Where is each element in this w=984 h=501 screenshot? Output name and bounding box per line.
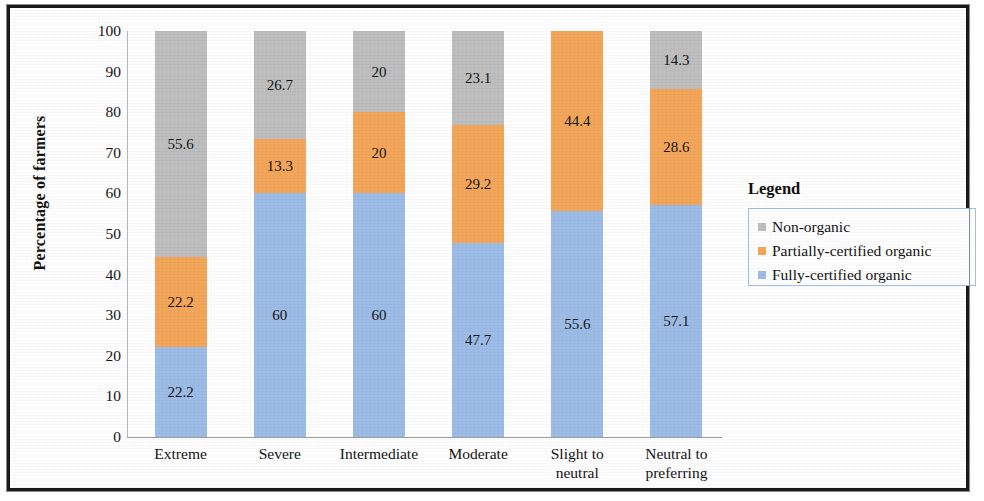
bar-segment[interactable]: 55.6 (551, 211, 603, 437)
x-axis-tick-line: Severe (228, 444, 332, 463)
x-axis-tick-line: Intermediate (327, 444, 431, 463)
bar-value-label: 22.2 (155, 293, 207, 310)
y-axis-tick-50: 50 (65, 225, 121, 243)
x-axis-tick-label: Slight toneutral (525, 444, 629, 482)
bar-value-label: 20 (353, 144, 405, 161)
bar-value-label: 47.7 (452, 332, 504, 349)
bar-value-label: 14.3 (650, 52, 702, 69)
bar-value-label: 44.4 (551, 113, 603, 130)
y-axis-tick-10: 10 (65, 387, 121, 405)
bar-value-label: 57.1 (650, 313, 702, 330)
legend-item[interactable]: Fully-certified organic (758, 264, 912, 286)
bar-value-label: 60 (353, 307, 405, 324)
bar-segment[interactable]: 13.3 (254, 139, 306, 193)
bar-value-label: 13.3 (254, 158, 306, 175)
bar-segment[interactable]: 44.4 (551, 31, 603, 211)
x-axis-tick-label: Severe (228, 444, 332, 463)
y-axis-tick-80: 80 (65, 103, 121, 121)
bar-segment[interactable]: 47.7 (452, 243, 504, 437)
legend-item-label: Non-organic (772, 218, 850, 236)
bar-segment[interactable]: 22.2 (155, 257, 207, 347)
y-axis-tick-60: 60 (65, 184, 121, 202)
x-axis-tick-label: Intermediate (327, 444, 431, 463)
legend-swatch-icon (758, 247, 766, 255)
bar-value-label: 23.1 (452, 69, 504, 86)
legend-swatch-icon (758, 271, 766, 279)
bar-value-label: 29.2 (452, 176, 504, 193)
y-axis-tick-70: 70 (65, 144, 121, 162)
legend-box: Non-organicPartially-certified organicFu… (748, 208, 976, 286)
legend-item-label: Partially-certified organic (772, 242, 931, 260)
y-axis-tick-90: 90 (65, 63, 121, 81)
bar-value-label: 22.2 (155, 383, 207, 400)
x-axis-line (127, 437, 722, 438)
legend-item[interactable]: Non-organic (758, 216, 850, 238)
bar-segment[interactable]: 23.1 (452, 31, 504, 125)
bar-segment[interactable]: 20 (353, 112, 405, 193)
bar-segment[interactable]: 57.1 (650, 205, 702, 437)
x-axis-tick-line: neutral (525, 463, 629, 482)
bar-group[interactable]: 47.729.223.1 (452, 31, 504, 437)
legend-title: Legend (748, 179, 800, 199)
legend-swatch-icon (758, 223, 766, 231)
plot-area: 22.222.255.66013.326.760202047.729.223.1… (127, 31, 722, 437)
x-axis-tick-line: Extreme (129, 444, 233, 463)
legend-item[interactable]: Partially-certified organic (758, 240, 931, 262)
y-axis-tick-20: 20 (65, 347, 121, 365)
bar-segment[interactable]: 60 (353, 193, 405, 437)
x-axis-tick-labels: ExtremeSevereIntermediateModerateSlight … (127, 444, 722, 492)
y-axis-title: Percentage of farmers (31, 68, 49, 318)
bar-value-label: 20 (353, 63, 405, 80)
x-axis-tick-line: Moderate (426, 444, 530, 463)
bar-segment[interactable]: 14.3 (650, 31, 702, 89)
bar-segment[interactable]: 22.2 (155, 347, 207, 437)
bar-group[interactable]: 602020 (353, 31, 405, 437)
x-axis-tick-label: Moderate (426, 444, 530, 463)
x-axis-tick-label: Neutral topreferring (624, 444, 728, 482)
y-axis-tick-labels: 1009080706050403020100 (65, 31, 121, 437)
bar-segment[interactable]: 55.6 (155, 31, 207, 257)
x-axis-tick-line: Slight to (525, 444, 629, 463)
bar-value-label: 55.6 (155, 135, 207, 152)
x-axis-tick-label: Extreme (129, 444, 233, 463)
x-axis-tick-line: preferring (624, 463, 728, 482)
bar-group[interactable]: 22.222.255.6 (155, 31, 207, 437)
bar-value-label: 60 (254, 307, 306, 324)
y-axis-tick-40: 40 (65, 266, 121, 284)
bar-value-label: 28.6 (650, 139, 702, 156)
bar-value-label: 55.6 (551, 316, 603, 333)
stacked-bar-chart: Percentage of farmers 100908070605040302… (10, 8, 972, 494)
bar-segment[interactable]: 28.6 (650, 89, 702, 205)
bar-group[interactable]: 57.128.614.3 (650, 31, 702, 437)
y-axis-tick-30: 30 (65, 306, 121, 324)
x-axis-tick-line: Neutral to (624, 444, 728, 463)
bar-group[interactable]: 55.644.4 (551, 31, 603, 437)
y-axis-tick-0: 0 (65, 428, 121, 446)
legend-item-label: Fully-certified organic (772, 266, 912, 284)
bar-segment[interactable]: 26.7 (254, 31, 306, 139)
y-axis-line (127, 31, 128, 437)
figure-frame: Percentage of farmers 100908070605040302… (7, 5, 969, 491)
bar-segment[interactable]: 60 (254, 193, 306, 437)
bar-value-label: 26.7 (254, 77, 306, 94)
y-axis-tick-100: 100 (65, 22, 121, 40)
bar-segment[interactable]: 29.2 (452, 125, 504, 244)
bar-group[interactable]: 6013.326.7 (254, 31, 306, 437)
bar-segment[interactable]: 20 (353, 31, 405, 112)
